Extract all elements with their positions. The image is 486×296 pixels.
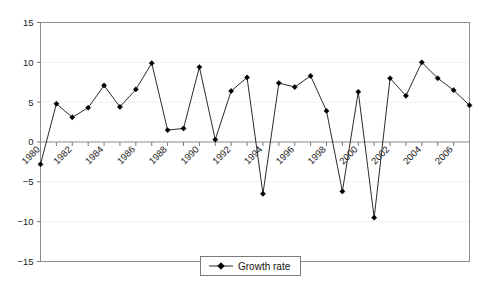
- chart-legend: Growth rate: [201, 257, 301, 276]
- y-axis-label-10: 10: [23, 57, 34, 68]
- chart-canvas: −15−10−5051015 1980198219841986198819901…: [0, 0, 486, 296]
- y-axis-label-5: 5: [28, 97, 33, 108]
- growth-rate-line-chart: −15−10−5051015 1980198219841986198819901…: [0, 0, 486, 296]
- y-axis-label-15: 15: [23, 17, 34, 28]
- y-axis-label--5: −5: [23, 176, 34, 187]
- y-axis-label--15: −15: [17, 256, 33, 267]
- legend-label-growth-rate: Growth rate: [238, 261, 291, 272]
- y-axis-label--10: −10: [17, 216, 33, 227]
